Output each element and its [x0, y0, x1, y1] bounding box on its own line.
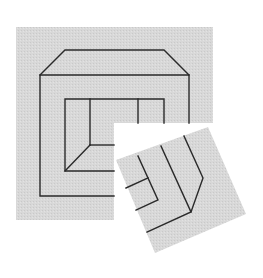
puzzle-figure [0, 0, 263, 278]
diagram-stage [0, 0, 263, 278]
